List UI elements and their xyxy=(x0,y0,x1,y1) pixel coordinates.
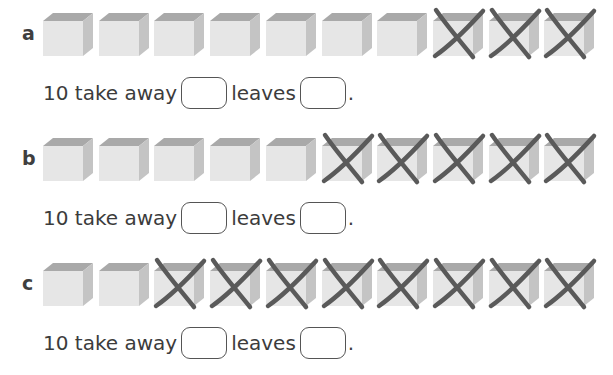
crossed-cube-icon xyxy=(544,262,594,308)
text-leaves: leaves xyxy=(231,206,296,230)
cube-icon xyxy=(322,12,372,58)
answer-box-taken[interactable] xyxy=(181,202,227,234)
text-take-away: 10 take away xyxy=(43,81,177,105)
crossed-cube-icon xyxy=(489,12,539,58)
cube-icon xyxy=(99,262,149,308)
answer-box-taken[interactable] xyxy=(181,327,227,359)
period: . xyxy=(348,206,354,230)
cube-icon xyxy=(99,12,149,58)
crossed-cube-icon xyxy=(489,137,539,183)
text-take-away: 10 take away xyxy=(43,206,177,230)
cube-icon xyxy=(210,137,260,183)
crossed-cube-icon xyxy=(377,262,427,308)
crossed-cube-icon xyxy=(433,262,483,308)
cube-icon xyxy=(377,12,427,58)
cube-icon xyxy=(154,12,204,58)
text-take-away: 10 take away xyxy=(43,331,177,355)
answer-box-left[interactable] xyxy=(300,327,346,359)
crossed-cube-icon xyxy=(266,262,316,308)
cube-icon xyxy=(43,12,93,58)
crossed-cube-icon xyxy=(544,137,594,183)
period: . xyxy=(348,81,354,105)
answer-box-left[interactable] xyxy=(300,77,346,109)
question-letter: b xyxy=(22,147,36,169)
cube-icon xyxy=(99,137,149,183)
cube-icon xyxy=(154,137,204,183)
crossed-cube-icon xyxy=(377,137,427,183)
cube-icon xyxy=(43,137,93,183)
text-leaves: leaves xyxy=(231,81,296,105)
cube-icon xyxy=(210,12,260,58)
crossed-cube-icon xyxy=(489,262,539,308)
text-leaves: leaves xyxy=(231,331,296,355)
crossed-cube-icon xyxy=(322,137,372,183)
crossed-cube-icon xyxy=(322,262,372,308)
cube-row xyxy=(43,12,603,62)
crossed-cube-icon xyxy=(433,137,483,183)
cube-icon xyxy=(266,137,316,183)
period: . xyxy=(348,331,354,355)
crossed-cube-icon xyxy=(433,12,483,58)
answer-box-taken[interactable] xyxy=(181,77,227,109)
crossed-cube-icon xyxy=(210,262,260,308)
sentence: 10 take away leaves . xyxy=(43,76,354,110)
cube-icon xyxy=(43,262,93,308)
answer-box-left[interactable] xyxy=(300,202,346,234)
cube-row xyxy=(43,137,603,187)
cube-icon xyxy=(266,12,316,58)
crossed-cube-icon xyxy=(154,262,204,308)
question-letter: a xyxy=(22,22,35,44)
sentence: 10 take away leaves . xyxy=(43,201,354,235)
question-letter: c xyxy=(22,272,33,294)
sentence: 10 take away leaves . xyxy=(43,326,354,360)
cube-row xyxy=(43,262,603,312)
crossed-cube-icon xyxy=(544,12,594,58)
